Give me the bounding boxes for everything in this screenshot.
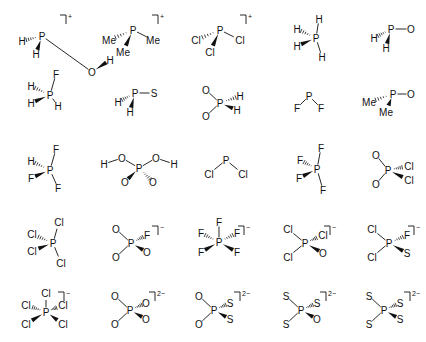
hashed-bond [389,303,396,308]
atom-label: O [407,24,415,35]
phosphorus-atom: P [385,165,392,176]
phosphorus-atom: P [381,305,388,316]
phosphorus-atom: P [388,24,395,35]
charge-label: − [160,224,164,231]
phosphorus-atom: P [298,305,305,316]
single-bond [143,160,152,165]
molecule-12: POHOHOO [100,153,177,188]
atom-label: H [27,81,34,92]
molecule-9: PFF [294,91,324,114]
wedge-bond [31,314,42,322]
charge-bracket [240,15,246,24]
atom-label: Cl [283,224,292,235]
atom-label: Cl [404,161,413,172]
atom-label: O [88,67,96,78]
charge-label: − [246,224,250,231]
atom-label: Me [362,97,376,108]
atom-label: H [293,24,300,35]
atom-label: F [144,230,150,241]
single-bond [293,246,301,253]
phosphorus-atom: P [43,307,50,318]
molecule-21: PClClClClCl− [21,288,70,330]
atom-label: F [216,217,222,228]
charge-bracket [320,292,326,301]
hashed-bond [32,305,40,310]
charge-label: − [332,224,336,231]
phosphorus-atom: P [132,88,139,99]
charge-bracket [149,292,155,301]
molecule-19: PClClClO− [283,224,336,263]
hashed-bond [38,235,47,241]
wedge-bond [393,245,404,253]
charge-bracket [152,226,158,235]
molecule-15: POOClCl [372,150,414,190]
molecule-17: POOFO− [112,224,164,263]
atom-label: H [315,14,322,25]
atom-label: F [234,228,240,239]
phosphorus-atom: P [47,165,54,176]
atom-label: S [397,298,404,309]
atom-label: O [142,298,150,309]
atom-label: O [112,224,120,235]
molecule-14: PFFFF [296,143,326,196]
atom-label: S [227,314,234,325]
single-bond [229,163,237,170]
wedge-bond [224,105,234,111]
atom-label: Cl [318,230,327,241]
atom-label: Cl [404,175,413,186]
single-bond [46,39,89,70]
atom-label: F [198,247,204,258]
wedge-bond [34,97,46,104]
wedge-bond [50,315,59,322]
single-bond [126,160,135,165]
atom-label: Me [146,35,160,46]
hashed-bond [121,96,129,102]
molecule-8: POOHH [202,85,244,122]
single-bond [224,32,234,37]
atom-label: Cl [238,169,247,180]
molecule-23: POOSS2− [195,290,250,330]
atom-label: O [313,314,321,325]
atom-label: O [195,319,203,330]
atom-label: Cl [27,246,36,257]
atom-label: O [121,177,129,188]
atom-label: S [151,88,158,99]
single-bond [118,299,126,307]
phosphorus-atom: P [216,237,223,248]
phosphorus-atom: P [211,305,218,316]
phosphorus-atom: P [302,238,309,249]
phosphorus-atom: P [217,25,224,36]
phosphorus-atom: P [50,238,57,249]
hashed-bond [26,37,36,42]
wedge-bond [392,172,404,179]
charge-bracket [404,292,410,301]
phosphorus-atom: P [386,238,393,249]
atom-label: S [366,319,373,330]
hashed-bond [202,32,214,39]
atom-label: H [54,101,61,112]
atom-label: Cl [204,169,213,180]
atom-label: O [319,248,327,259]
hashed-bond [34,86,44,93]
single-bond [118,313,126,321]
hashed-bond [395,235,404,241]
molecule-24: PSSSO2− [283,290,336,330]
molecule-3: PClClCl+ [191,13,252,58]
atom-label: Cl [58,300,67,311]
atom-label: O [407,89,415,100]
atom-label: Cl [283,252,292,263]
molecule-grid: POHHH+PMeMeMe+PClClCl+PHHHHPOHHPFHHHPSHH… [0,0,426,342]
charge-label: 2− [328,290,336,297]
molecule-13: PClCl [204,155,247,180]
hashed-bond [394,165,402,169]
atom-label: O [195,291,203,302]
atom-label: O [142,314,150,325]
phosphorus-atom: P [314,164,321,175]
molecule-1: POHHH+ [18,13,113,78]
single-bond [289,299,297,307]
atom-label: F [318,103,324,114]
atom-label: O [372,179,380,190]
atom-label: F [294,103,300,114]
atom-label: H [27,98,34,109]
phosphorus-atom: P [128,238,135,249]
